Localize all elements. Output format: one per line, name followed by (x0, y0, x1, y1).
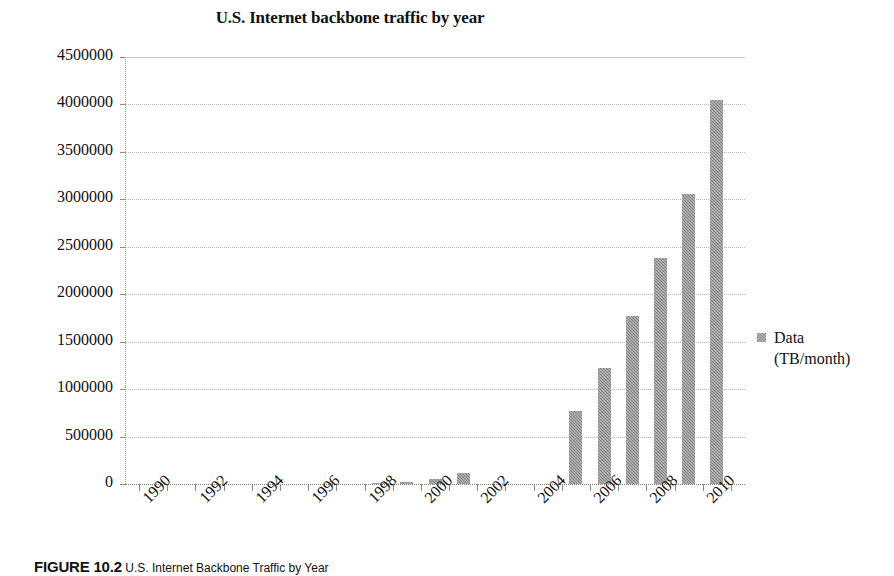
y-axis-tick-label: 4500000 (0, 46, 113, 64)
gridline (125, 57, 745, 58)
gridline (125, 294, 745, 295)
gridline (125, 437, 745, 438)
bar (654, 258, 667, 484)
y-axis-tick (120, 104, 125, 105)
legend-entry-data: Data (757, 327, 892, 348)
bar (598, 368, 611, 484)
legend-swatch-icon (757, 333, 766, 342)
y-axis-tick (120, 247, 125, 248)
y-axis-tick-label: 2000000 (0, 283, 113, 301)
figure-caption-label: FIGURE 10.2 (34, 558, 122, 575)
plot-area (125, 57, 745, 484)
figure-root: U.S. Internet backbone traffic by year 4… (0, 0, 894, 576)
bar (626, 316, 639, 484)
y-axis-tick-label: 500000 (0, 426, 113, 444)
y-axis-tick-label: 2500000 (0, 236, 113, 254)
y-axis-tick (120, 294, 125, 295)
gridline (125, 247, 745, 248)
y-axis-tick-label: 4000000 (0, 93, 113, 111)
y-axis-line (125, 57, 126, 484)
legend-label-line2: (TB/month) (757, 348, 892, 369)
y-axis-tick-label: 0 (0, 473, 113, 491)
chart-title: U.S. Internet backbone traffic by year (0, 8, 700, 28)
y-axis-tick (120, 152, 125, 153)
gridline (125, 152, 745, 153)
figure-caption: FIGURE 10.2 U.S. Internet Backbone Traff… (34, 558, 874, 576)
y-axis-tick (120, 437, 125, 438)
y-axis-tick (120, 199, 125, 200)
gridline (125, 104, 745, 105)
gridline (125, 389, 745, 390)
gridline (125, 199, 745, 200)
figure-caption-text: U.S. Internet Backbone Traffic by Year (125, 561, 328, 575)
y-axis-tick-label: 3500000 (0, 141, 113, 159)
y-axis-tick (120, 389, 125, 390)
legend-label-line1: Data (774, 329, 804, 346)
y-axis-tick (120, 342, 125, 343)
chart-legend: Data (TB/month) (757, 327, 892, 369)
bar (457, 473, 470, 484)
gridline (125, 342, 745, 343)
y-axis-tick (120, 57, 125, 58)
bar (682, 194, 695, 484)
y-axis-tick-label: 1500000 (0, 331, 113, 349)
y-axis-tick-label: 3000000 (0, 188, 113, 206)
bar (710, 100, 723, 484)
y-axis-tick-label: 1000000 (0, 378, 113, 396)
bar (569, 411, 582, 484)
